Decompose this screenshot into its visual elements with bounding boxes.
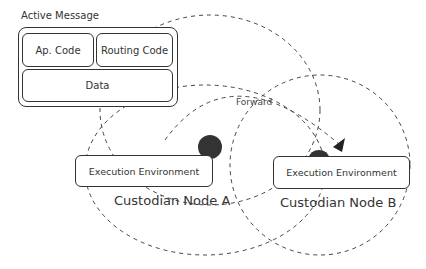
node-a-label: Custodian Node A (114, 193, 230, 208)
active-message-title: Active Message (21, 10, 99, 21)
forward-arrowhead-icon (333, 138, 345, 152)
forward-label: Forward (236, 97, 272, 107)
ap-code-field: Ap. Code (22, 33, 94, 67)
node-b-label: Custodian Node B (280, 195, 396, 210)
data-field: Data (22, 69, 173, 102)
node-a-execution-environment: Execution Environment (75, 155, 213, 187)
node-b-execution-environment: Execution Environment (273, 156, 410, 189)
routing-code-field: Routing Code (96, 33, 173, 67)
